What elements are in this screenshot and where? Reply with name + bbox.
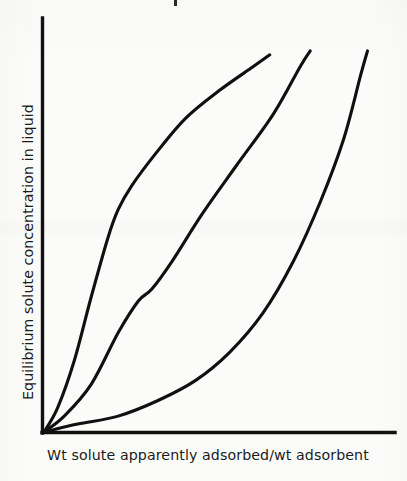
isotherm-curve-1 xyxy=(44,55,270,432)
adsorption-isotherm-figure: Wt solute apparently adsorbed/wt adsorbe… xyxy=(0,0,407,481)
x-axis-label: Wt solute apparently adsorbed/wt adsorbe… xyxy=(47,447,369,463)
y-axis-label: Equilibrium solute concentration in liqu… xyxy=(20,104,36,400)
plot-canvas xyxy=(0,0,407,481)
isotherm-curve-2 xyxy=(44,51,310,432)
isotherm-curve-3 xyxy=(44,51,368,432)
